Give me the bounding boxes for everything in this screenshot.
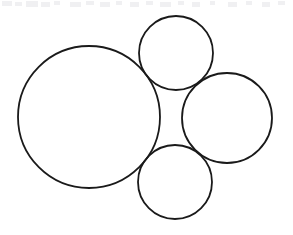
top-circle <box>139 16 213 90</box>
bottom-circle <box>138 145 212 219</box>
tangent-circles-diagram <box>0 0 293 235</box>
figure-canvas <box>0 0 293 235</box>
right-circle <box>182 73 272 163</box>
large-circle <box>18 46 160 188</box>
